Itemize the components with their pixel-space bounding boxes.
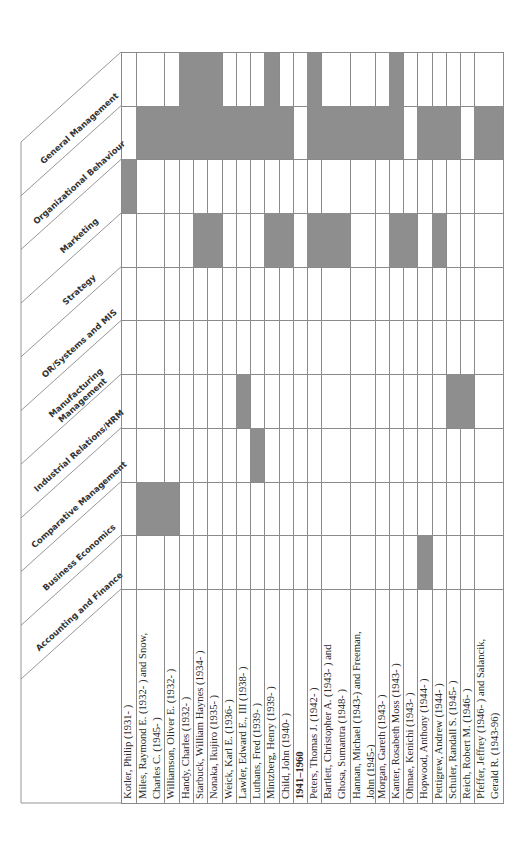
thinker-discipline-matrix: Kotler, Philip (1931- )Miles, Raymond E.…	[0, 0, 527, 851]
thinker-name: Schuler, Randall S. (1945- )	[446, 629, 461, 799]
thinker-name: Child, John (1940- )	[279, 629, 294, 799]
name-row: Peters, Thomas J. (1942- )	[307, 589, 322, 803]
thinker-name: Reich, Robert M. (1946- )	[460, 629, 475, 799]
name-row: Nonaka, Ikujiro (1935- )	[207, 589, 223, 803]
thinker-name: Handy, Charles (1932- )	[179, 629, 194, 799]
name-row: Reich, Robert M. (1946- )	[460, 589, 475, 803]
thinker-name: Ohmae, Kenichi (1943- )	[403, 629, 418, 799]
thinker-name: Pfeffer, Jeffrey (1946- ) and Salancik, …	[474, 629, 502, 799]
name-row: Lawler, Edward E., III (1938- )	[236, 589, 251, 803]
thinker-name: Kotler, Philip (1931- )	[121, 629, 136, 799]
thinker-name: Pettigrew, Andrew (1944- )	[432, 629, 447, 799]
name-row: Morgan, Gareth (1943- )	[375, 589, 390, 803]
header-divider	[21, 589, 121, 679]
name-row: Miles, Raymond E. (1932- ) and Snow, Cha…	[136, 589, 165, 803]
thinker-name: Luthans, Fred (1939- )	[250, 629, 265, 799]
section-header-row: 1941–1960	[293, 589, 308, 803]
section-label: 1941–1960	[293, 629, 308, 799]
thinker-name: Nonaka, Ikujiro (1935- )	[207, 629, 222, 799]
name-row: Kanter, Rosabeth Moss (1943- )	[389, 589, 404, 803]
name-row: Bartlett, Christopher A. (1943- ) and Gh…	[321, 589, 351, 803]
name-row: Hopwood, Anthony (1944- )	[417, 589, 433, 803]
name-row: Starbuck, William Haynes (1934- )	[193, 589, 208, 803]
thinker-name: Hopwood, Anthony (1944- )	[417, 629, 432, 799]
thinker-name: Kanter, Rosabeth Moss (1943- )	[389, 629, 404, 799]
thinker-name: Bartlett, Christopher A. (1943- ) and Gh…	[321, 629, 349, 799]
thinker-name: Hannan, Michael (1943-) and Freeman, Joh…	[350, 629, 376, 799]
name-row: Ohmae, Kenichi (1943- )	[403, 589, 418, 803]
name-row: Kotler, Philip (1931- )	[121, 589, 137, 803]
name-row: Pfeffer, Jeffrey (1946- ) and Salancik, …	[474, 589, 504, 803]
thinker-name: Miles, Raymond E. (1932- ) and Snow, Cha…	[136, 629, 164, 799]
thinker-name: Weick, Karl E. (1936- )	[222, 629, 237, 799]
name-row: Luthans, Fred (1939- )	[250, 589, 265, 803]
name-row: Mintzberg, Henry (1939- )	[264, 589, 280, 803]
thinker-name: Mintzberg, Henry (1939- )	[264, 629, 279, 799]
thinker-name: Peters, Thomas J. (1942- )	[307, 629, 322, 799]
name-row: Schuler, Randall S. (1945- )	[446, 589, 461, 803]
name-row: Handy, Charles (1932- )	[179, 589, 194, 803]
thinker-name: Williamson, Oliver E. (1932- )	[164, 629, 179, 799]
name-row: Pettigrew, Andrew (1944- )	[432, 589, 447, 803]
thinker-name: Morgan, Gareth (1943- )	[375, 629, 390, 799]
thinker-name: Starbuck, William Haynes (1934- )	[193, 629, 208, 799]
name-row: Weick, Karl E. (1936- )	[222, 589, 237, 803]
name-row: Hannan, Michael (1943-) and Freeman, Joh…	[350, 589, 376, 803]
name-row: Williamson, Oliver E. (1932- )	[164, 589, 180, 803]
thinker-name: Lawler, Edward E., III (1938- )	[236, 629, 251, 799]
name-row: Child, John (1940- )	[279, 589, 294, 803]
